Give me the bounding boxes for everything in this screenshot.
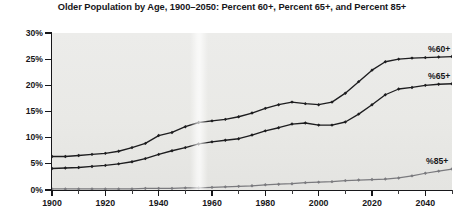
data-point-marker	[64, 155, 67, 158]
series-65	[52, 82, 452, 170]
data-point-marker	[250, 133, 253, 136]
y-tick-label: 15%	[26, 106, 43, 116]
data-point-marker	[90, 153, 93, 156]
series-label-60: %60+	[428, 44, 450, 54]
data-point-marker	[410, 56, 413, 59]
x-tick-minor	[185, 190, 186, 194]
x-tick-label: 1980	[245, 198, 285, 208]
y-tick-label: 10%	[26, 132, 43, 142]
x-tick-label: 1920	[85, 198, 125, 208]
data-point-marker	[224, 139, 227, 142]
x-tick-minor	[398, 190, 399, 194]
data-point-marker	[237, 115, 240, 118]
data-point-marker	[304, 121, 307, 124]
data-point-marker	[304, 181, 307, 184]
data-point-marker	[184, 146, 187, 149]
y-tick-mark	[45, 111, 51, 112]
data-point-marker	[330, 123, 333, 126]
data-point-marker	[197, 142, 200, 145]
data-point-marker	[264, 183, 267, 186]
x-axis-line	[51, 190, 452, 191]
series-line	[52, 57, 452, 157]
data-point-marker	[344, 179, 347, 182]
y-axis-line	[51, 32, 52, 191]
data-point-marker	[224, 185, 227, 188]
x-tick-major	[371, 190, 372, 196]
x-tick-label: 2040	[405, 198, 445, 208]
data-point-marker	[237, 185, 240, 188]
data-point-marker	[290, 122, 293, 125]
plot-area	[52, 33, 452, 190]
x-tick-major	[211, 190, 212, 196]
y-tick-mark	[45, 32, 51, 33]
data-point-marker	[317, 123, 320, 126]
x-tick-minor	[132, 190, 133, 194]
data-point-marker	[224, 118, 227, 121]
x-tick-major	[318, 190, 319, 196]
x-tick-minor	[452, 190, 453, 194]
data-point-marker	[130, 146, 133, 149]
data-point-marker	[290, 182, 293, 185]
y-tick-label: 25%	[26, 54, 43, 64]
data-point-marker	[277, 183, 280, 186]
data-point-marker	[424, 56, 427, 59]
data-point-marker	[197, 121, 200, 124]
data-point-marker	[304, 102, 307, 105]
x-tick-label: 1900	[32, 198, 72, 208]
x-tick-major	[265, 190, 266, 196]
data-point-marker	[357, 178, 360, 181]
data-point-marker	[277, 126, 280, 129]
chart-title: Older Population by Age, 1900–2050: Perc…	[0, 2, 464, 12]
data-point-marker	[397, 176, 400, 179]
x-tick-major	[51, 190, 52, 196]
data-point-marker	[437, 83, 440, 86]
x-tick-major	[425, 190, 426, 196]
data-point-marker	[450, 167, 452, 170]
data-point-marker	[384, 177, 387, 180]
y-tick-label: 0%	[31, 185, 43, 195]
data-point-marker	[370, 178, 373, 181]
data-point-marker	[330, 180, 333, 183]
data-point-marker	[264, 107, 267, 110]
series-line	[52, 84, 452, 169]
plot-svg	[52, 33, 452, 190]
x-tick-label: 1940	[139, 198, 179, 208]
x-tick-minor	[78, 190, 79, 194]
data-point-marker	[317, 103, 320, 106]
y-tick-mark	[45, 137, 51, 138]
x-tick-label: 1960	[192, 198, 232, 208]
data-point-marker	[450, 82, 452, 85]
data-point-marker	[450, 55, 452, 58]
data-point-marker	[210, 119, 213, 122]
x-tick-minor	[292, 190, 293, 194]
data-point-marker	[104, 164, 107, 167]
data-point-marker	[90, 165, 93, 168]
x-tick-major	[105, 190, 106, 196]
data-point-marker	[144, 157, 147, 160]
x-tick-minor	[238, 190, 239, 194]
data-point-marker	[410, 86, 413, 89]
data-point-marker	[104, 152, 107, 155]
data-point-marker	[277, 103, 280, 106]
series-85	[52, 167, 452, 190]
y-tick-mark	[45, 85, 51, 86]
x-tick-label: 2000	[299, 198, 339, 208]
data-point-marker	[64, 166, 67, 169]
data-point-marker	[77, 154, 80, 157]
y-tick-label: 20%	[26, 80, 43, 90]
series-label-65: %65+	[428, 71, 450, 81]
data-point-marker	[250, 111, 253, 114]
data-point-marker	[77, 166, 80, 169]
data-point-marker	[157, 153, 160, 156]
data-point-marker	[424, 84, 427, 87]
data-point-marker	[210, 140, 213, 143]
y-tick-label: 30%	[26, 28, 43, 38]
data-point-marker	[117, 150, 120, 153]
y-tick-mark	[45, 163, 51, 164]
data-point-marker	[317, 180, 320, 183]
chart-figure: Older Population by Age, 1900–2050: Perc…	[0, 0, 464, 219]
data-point-marker	[437, 55, 440, 58]
data-point-marker	[237, 137, 240, 140]
data-point-marker	[130, 160, 133, 163]
y-tick-mark	[45, 59, 51, 60]
